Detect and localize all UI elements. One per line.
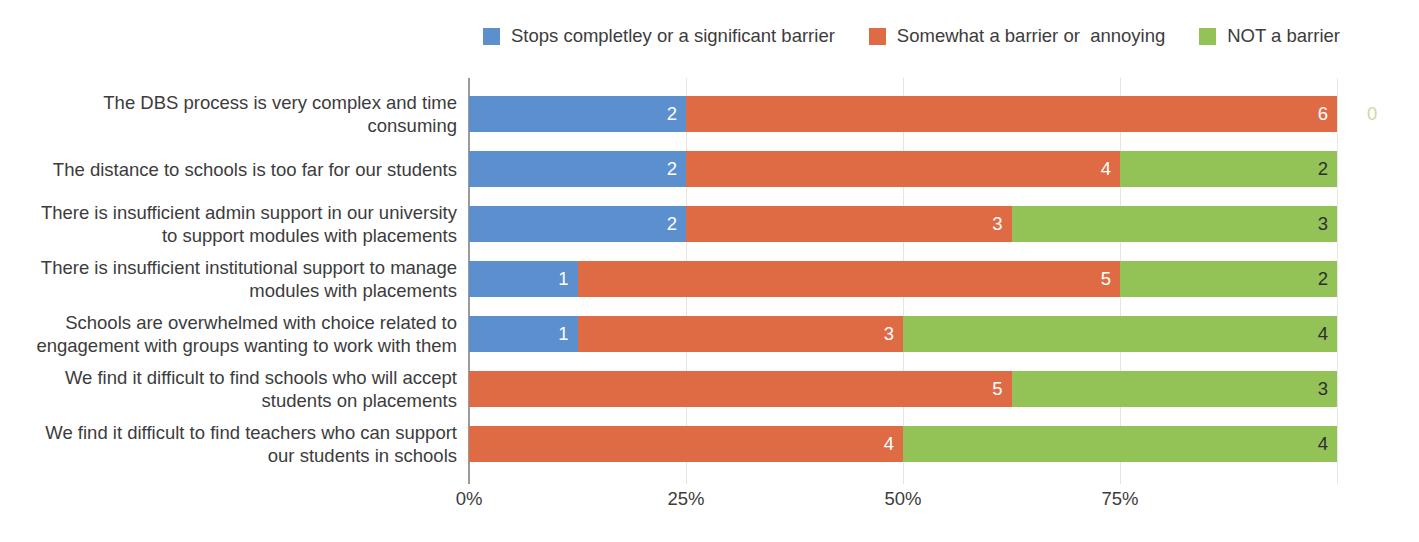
category-label-line: We find it difficult to find schools who… xyxy=(14,366,457,389)
segment-orange-value: 3 xyxy=(992,215,1011,234)
segment-blue[interactable]: 1 xyxy=(469,316,578,352)
chart-legend: Stops completley or a significant barrie… xyxy=(0,27,1419,46)
segment-orange-value: 6 xyxy=(1318,105,1337,124)
category-label-line: The distance to schools is too far for o… xyxy=(14,158,457,181)
segment-green[interactable]: 2 xyxy=(1120,151,1337,187)
category-label-line: engagement with groups wanting to work w… xyxy=(14,334,457,357)
bar-row: 053 xyxy=(469,371,1337,407)
segment-orange-value: 4 xyxy=(884,435,903,454)
segment-blue[interactable]: 2 xyxy=(469,206,686,242)
segment-green[interactable]: 4 xyxy=(903,426,1337,462)
category-label-line: Schools are overwhelmed with choice rela… xyxy=(14,311,457,334)
segment-green-value: 3 xyxy=(1318,380,1337,399)
legend-swatch-not-barrier xyxy=(1199,28,1216,45)
segment-orange-value: 4 xyxy=(1101,160,1120,179)
chart-plot-area: 260242233152134053044 xyxy=(469,78,1337,484)
category-label-line: The DBS process is very complex and time xyxy=(14,91,457,114)
category-label-line: students on placements xyxy=(14,389,457,412)
legend-item-stops-completely[interactable]: Stops completley or a significant barrie… xyxy=(483,27,835,46)
segment-blue-value: 1 xyxy=(558,270,577,289)
category-label: We find it difficult to find schools who… xyxy=(14,366,469,412)
segment-orange[interactable]: 6 xyxy=(686,96,1337,132)
category-label: We find it difficult to find teachers wh… xyxy=(14,421,469,467)
segment-blue[interactable]: 2 xyxy=(469,151,686,187)
segment-green-value: 2 xyxy=(1318,270,1337,289)
category-label-line: to support modules with placements xyxy=(14,224,457,247)
segment-blue-value: 2 xyxy=(667,160,686,179)
bar-row: 260 xyxy=(469,96,1337,132)
category-label: There is insufficient admin support in o… xyxy=(14,201,469,247)
segment-green-value: 4 xyxy=(1318,435,1337,454)
x-tick-25: 25% xyxy=(667,490,704,509)
x-tick-50: 50% xyxy=(884,490,921,509)
legend-label-not-barrier: NOT a barrier xyxy=(1227,27,1340,46)
segment-orange-value: 5 xyxy=(1101,270,1120,289)
segment-blue-value: 2 xyxy=(667,215,686,234)
segment-blue-value: 2 xyxy=(667,105,686,124)
category-label: Schools are overwhelmed with choice rela… xyxy=(14,311,469,357)
category-label-line: There is insufficient institutional supp… xyxy=(14,256,457,279)
segment-orange-value: 3 xyxy=(884,325,903,344)
legend-swatch-somewhat-barrier xyxy=(869,28,886,45)
category-label: There is insufficient institutional supp… xyxy=(14,256,469,302)
category-label: The distance to schools is too far for o… xyxy=(14,158,469,181)
x-tick-75: 75% xyxy=(1101,490,1138,509)
bar-row: 242 xyxy=(469,151,1337,187)
segment-green[interactable]: 3 xyxy=(1012,371,1338,407)
bar-row: 134 xyxy=(469,316,1337,352)
segment-orange-value: 5 xyxy=(992,380,1011,399)
segment-green-value: 3 xyxy=(1318,215,1337,234)
segment-blue[interactable]: 2 xyxy=(469,96,686,132)
category-label-line: consuming xyxy=(14,114,457,137)
bar-row: 152 xyxy=(469,261,1337,297)
legend-label-somewhat-barrier: Somewhat a barrier or annoying xyxy=(897,27,1165,46)
segment-green[interactable]: 3 xyxy=(1012,206,1338,242)
value-axis-tick-labels: 0%25%50%75% xyxy=(469,490,1337,520)
segment-blue[interactable]: 1 xyxy=(469,261,578,297)
segment-orange[interactable]: 4 xyxy=(686,151,1120,187)
segment-green[interactable]: 4 xyxy=(903,316,1337,352)
segment-blue-value: 1 xyxy=(558,325,577,344)
gridline-100 xyxy=(1337,78,1338,484)
x-tick-0: 0% xyxy=(456,490,483,509)
category-axis-labels: The DBS process is very complex and time… xyxy=(0,78,469,484)
legend-item-somewhat-barrier[interactable]: Somewhat a barrier or annoying xyxy=(869,27,1165,46)
segment-orange[interactable]: 4 xyxy=(469,426,903,462)
category-label-line: There is insufficient admin support in o… xyxy=(14,201,457,224)
segment-orange[interactable]: 3 xyxy=(686,206,1012,242)
legend-item-not-barrier[interactable]: NOT a barrier xyxy=(1199,27,1340,46)
segment-green-value-outside: 0 xyxy=(1367,96,1377,132)
bar-row: 044 xyxy=(469,426,1337,462)
segment-orange[interactable]: 5 xyxy=(469,371,1012,407)
segment-green-value: 2 xyxy=(1318,160,1337,179)
segment-green[interactable]: 2 xyxy=(1120,261,1337,297)
segment-orange[interactable]: 5 xyxy=(578,261,1121,297)
legend-swatch-stops-completely xyxy=(483,28,500,45)
category-label-line: modules with placements xyxy=(14,279,457,302)
legend-label-stops-completely: Stops completley or a significant barrie… xyxy=(511,27,835,46)
bar-row: 233 xyxy=(469,206,1337,242)
category-label-line: our students in schools xyxy=(14,444,457,467)
segment-orange[interactable]: 3 xyxy=(578,316,904,352)
category-label: The DBS process is very complex and time… xyxy=(14,91,469,137)
category-label-line: We find it difficult to find teachers wh… xyxy=(14,421,457,444)
segment-green-value: 4 xyxy=(1318,325,1337,344)
